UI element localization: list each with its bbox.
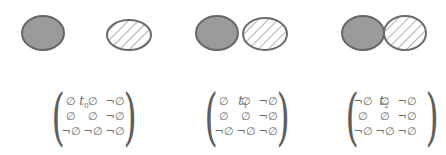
panel-t0-regions bbox=[22, 16, 151, 50]
matrix-cell: ¬∅ bbox=[352, 94, 374, 109]
matrix-cell: ¬∅ bbox=[396, 94, 418, 109]
solid-region-a bbox=[22, 16, 64, 50]
matrix-cell: ¬∅ bbox=[352, 124, 374, 139]
right-paren: ) bbox=[425, 89, 438, 145]
matrix-cell: ∅ bbox=[60, 94, 82, 109]
right-paren: ) bbox=[276, 89, 289, 145]
matrix-cell: ¬∅ bbox=[396, 109, 418, 124]
right-paren: ) bbox=[123, 89, 136, 145]
regions-illustration bbox=[0, 0, 446, 80]
matrix-cell: ¬∅ bbox=[213, 124, 235, 139]
matrix-cell: ∅ bbox=[213, 94, 235, 109]
matrix-cell: ∅ bbox=[352, 109, 374, 124]
panel-t1-regions bbox=[196, 16, 287, 50]
matrix-cell: ∅ bbox=[374, 109, 396, 124]
matrix-cell: ¬∅ bbox=[60, 124, 82, 139]
matrix-grid: ¬∅ ∅ ¬∅ ∅ ∅ ¬∅ ¬∅ ¬∅ ¬∅ bbox=[352, 94, 418, 139]
hatched-region-b bbox=[107, 20, 151, 50]
hatched-region-b bbox=[243, 18, 287, 50]
panel-t2-regions bbox=[342, 16, 426, 50]
intersection-matrix-t2: ( ¬∅ ∅ ¬∅ ∅ ∅ ¬∅ ¬∅ ¬∅ ¬∅ ) bbox=[344, 89, 428, 145]
matrix-cell: ∅ bbox=[235, 109, 257, 124]
solid-region-a bbox=[342, 16, 384, 50]
matrix-cell: ∅ bbox=[82, 109, 104, 124]
matrix-cell: ¬∅ bbox=[82, 124, 104, 139]
matrix-cell: ¬∅ bbox=[396, 124, 418, 139]
matrix-cell: ∅ bbox=[60, 109, 82, 124]
hatched-region-b bbox=[384, 16, 426, 50]
matrix-cell: ¬∅ bbox=[235, 124, 257, 139]
matrix-cell: ∅ bbox=[235, 94, 257, 109]
intersection-matrix-t0: ( ∅ ∅ ¬∅ ∅ ∅ ¬∅ ¬∅ ¬∅ ¬∅ ) bbox=[48, 89, 128, 145]
intersection-matrix-t1: ( ∅ ∅ ¬∅ ∅ ∅ ¬∅ ¬∅ ¬∅ ¬∅ ) bbox=[201, 89, 281, 145]
matrix-cell: ∅ bbox=[213, 109, 235, 124]
solid-region-a bbox=[196, 16, 238, 50]
matrix-cell: ∅ bbox=[374, 94, 396, 109]
matrix-grid: ∅ ∅ ¬∅ ∅ ∅ ¬∅ ¬∅ ¬∅ ¬∅ bbox=[213, 94, 279, 139]
matrix-grid: ∅ ∅ ¬∅ ∅ ∅ ¬∅ ¬∅ ¬∅ ¬∅ bbox=[60, 94, 126, 139]
matrix-cell: ¬∅ bbox=[374, 124, 396, 139]
matrix-cell: ∅ bbox=[82, 94, 104, 109]
